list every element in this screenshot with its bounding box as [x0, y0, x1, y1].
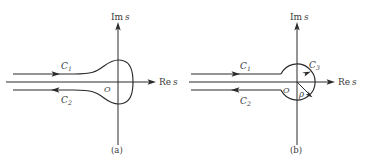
contour-c1-path-b — [191, 71, 281, 76]
contour-label-c1-b: C1 — [240, 61, 251, 72]
contour-c2-path-b — [191, 87, 281, 92]
real-axis-label-b: Res — [338, 77, 357, 87]
contour-c2-path-a — [13, 82, 133, 104]
imaginary-axis-a — [115, 22, 120, 145]
caption-a: (a) — [111, 145, 123, 155]
imaginary-axis-label-a: Ims — [111, 12, 130, 22]
contour-label-c1-a: C1 — [61, 61, 72, 72]
contour-label-c2-b: C2 — [240, 96, 251, 107]
panel-b-keyhole-circle-contour: Ims Res O ρ C1 C2 C3 — [189, 0, 378, 165]
contour-c1-path-a — [13, 60, 133, 82]
figure-container: Ims Res O C1 C2 (a) — [0, 0, 378, 165]
radius-label-rho-b: ρ — [298, 89, 304, 99]
contour-label-c3-b: C3 — [309, 60, 320, 71]
caption-b: (b) — [290, 145, 302, 155]
origin-label-a: O — [104, 85, 111, 94]
real-axis-b — [189, 79, 335, 84]
panel-a-keyhole-contour: Ims Res O C1 C2 (a) — [0, 0, 189, 165]
imaginary-axis-label-b: Ims — [290, 12, 309, 22]
contour-label-c2-a: C2 — [61, 95, 72, 106]
real-axis-label-a: Res — [159, 77, 178, 87]
